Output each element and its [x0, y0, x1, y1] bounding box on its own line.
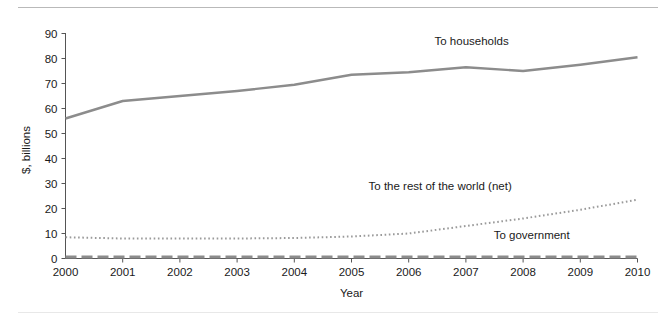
series-label-to-households: To households	[435, 35, 509, 47]
series-line-to-households	[66, 57, 638, 118]
line-chart-plot: 0102030405060708090 20002001200220032004…	[0, 0, 664, 323]
x-tick-label: 2003	[224, 266, 250, 278]
x-tick-label: 2005	[339, 266, 365, 278]
x-tick-label: 2009	[568, 266, 594, 278]
x-axis-tick-group: 2000200120022003200420052006200720082009…	[53, 259, 651, 278]
x-tick-label: 2001	[110, 266, 136, 278]
x-tick-label: 2010	[625, 266, 651, 278]
series-label-group: To householdsTo the rest of the world (n…	[369, 35, 571, 241]
x-tick-label: 2008	[510, 266, 536, 278]
x-tick-label: 2000	[53, 266, 79, 278]
x-tick-label: 2002	[167, 266, 193, 278]
y-tick-label: 0	[51, 253, 57, 265]
y-tick-label: 80	[45, 53, 58, 65]
y-tick-label: 90	[45, 28, 58, 40]
x-tick-label: 2006	[396, 266, 422, 278]
chart-figure: 0102030405060708090 20002001200220032004…	[0, 0, 664, 323]
x-tick-label: 2004	[282, 266, 308, 278]
y-tick-label: 50	[45, 128, 58, 140]
series-label-to-government: To government	[494, 229, 571, 241]
y-tick-label: 10	[45, 228, 58, 240]
x-tick-label: 2007	[453, 266, 479, 278]
data-series-group	[66, 57, 638, 257]
y-tick-label: 40	[45, 153, 58, 165]
y-tick-label: 60	[45, 103, 58, 115]
y-tick-label: 30	[45, 178, 58, 190]
series-label-to-the-rest-of-the-world-net: To the rest of the world (net)	[369, 180, 512, 192]
x-axis-title: Year	[340, 287, 363, 299]
y-axis-title: $, billions	[20, 126, 32, 174]
y-tick-label: 70	[45, 78, 58, 90]
y-tick-label: 20	[45, 203, 58, 215]
y-axis-tick-group: 0102030405060708090	[45, 28, 66, 265]
